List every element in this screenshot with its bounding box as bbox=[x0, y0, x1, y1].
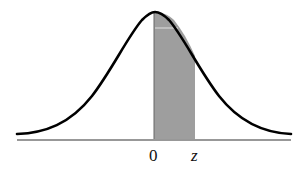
label-z: z bbox=[191, 147, 198, 164]
shaded-area bbox=[154, 12, 195, 139]
label-zero: 0 bbox=[149, 147, 158, 164]
normal-distribution-diagram bbox=[0, 0, 306, 169]
